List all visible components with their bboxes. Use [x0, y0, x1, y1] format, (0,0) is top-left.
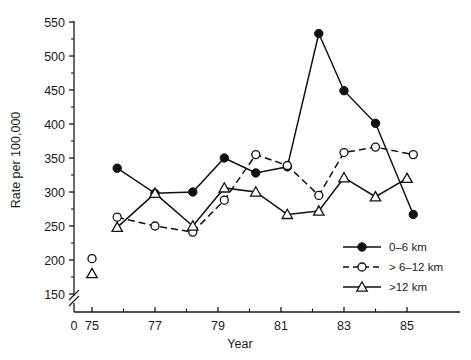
- chart-background: [0, 0, 471, 360]
- y-axis-tick-label: 300: [44, 186, 65, 200]
- data-point-2-9: [372, 143, 380, 151]
- data-point-2-5: [252, 151, 260, 159]
- data-point-1-5: [252, 169, 260, 177]
- data-point-1-3: [189, 188, 197, 196]
- x-axis-tick-label: 85: [400, 319, 414, 333]
- y-axis-title: Rate per 100,000: [9, 112, 23, 209]
- chart-figure: 150200250300350400450500550 075777981838…: [0, 0, 471, 360]
- x-axis-tick-label: 79: [211, 319, 225, 333]
- legend-label-3: >12 km: [389, 281, 427, 293]
- data-point-1-10: [409, 210, 417, 218]
- data-point-1-1: [113, 164, 121, 172]
- data-point-isolated-1: [88, 255, 96, 263]
- data-point-1-8: [340, 86, 348, 94]
- data-point-1-7: [315, 29, 323, 37]
- x-axis-tick-label: 77: [148, 319, 162, 333]
- x-axis-title: Year: [227, 337, 252, 351]
- x-axis-tick-label: 83: [337, 319, 351, 333]
- data-point-2-7: [315, 191, 323, 199]
- data-point-2-10: [409, 151, 417, 159]
- x-axis-tick-label: 75: [85, 319, 99, 333]
- y-axis-tick-label: 400: [44, 118, 65, 132]
- legend-label-1: 0–6 km: [389, 241, 427, 253]
- data-point-legend-marker-1: [358, 243, 366, 251]
- data-point-1-4: [220, 154, 228, 162]
- y-axis-tick-label: 150: [44, 288, 65, 302]
- x-axis-origin-label: 0: [71, 319, 78, 333]
- data-point-2-4: [220, 196, 228, 204]
- y-axis-tick-label: 250: [44, 220, 65, 234]
- y-axis-tick-label: 450: [44, 84, 65, 98]
- y-axis-tick-label: 500: [44, 50, 65, 64]
- data-point-2-6: [283, 161, 291, 169]
- line-chart-canvas: 150200250300350400450500550 075777981838…: [0, 0, 471, 360]
- y-axis-tick-label: 550: [44, 16, 65, 30]
- data-point-2-8: [340, 149, 348, 157]
- data-point-legend-marker-2: [358, 263, 366, 271]
- x-axis-tick-label: 81: [274, 319, 288, 333]
- y-axis-tick-label: 350: [44, 152, 65, 166]
- y-axis-tick-label: 200: [44, 254, 65, 268]
- data-point-1-9: [371, 119, 379, 127]
- legend-label-2: > 6–12 km: [389, 261, 443, 273]
- data-point-2-2: [151, 222, 159, 230]
- data-point-2-1: [113, 213, 121, 221]
